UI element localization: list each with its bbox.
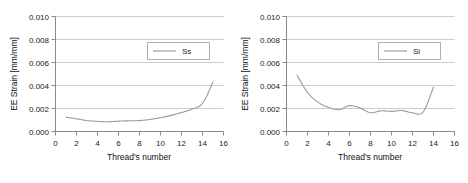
x-tick-label: 16 (450, 139, 459, 148)
x-tick-label: 4 (95, 139, 100, 148)
y-tick-label: 0.002 (260, 105, 281, 114)
x-tick-label: 10 (156, 139, 165, 148)
x-tick-label: 6 (116, 139, 121, 148)
x-tick-label: 16 (219, 139, 228, 148)
x-tick-label: 12 (408, 139, 417, 148)
x-tick-label: 0 (284, 139, 289, 148)
x-ticks-ss (56, 132, 224, 136)
y-tick-label: 0.006 (29, 59, 50, 68)
y-tick-label: 0.008 (29, 36, 50, 45)
x-tick-label: 8 (137, 139, 142, 148)
chart-panel-ss: 0.010 0.008 0.006 0.004 0.002 0.000 0 2 … (0, 0, 234, 183)
gridlines-ss (56, 17, 224, 109)
gridlines-si (287, 17, 455, 109)
x-tick-labels-si: 0 2 4 6 8 10 12 14 16 (284, 139, 459, 148)
x-tick-label: 14 (429, 139, 438, 148)
y-tick-label: 0.002 (29, 105, 50, 114)
axis-lines-si (287, 17, 455, 132)
y-tick-labels-si: 0.010 0.008 0.006 0.004 0.002 0.000 (260, 13, 281, 137)
x-ticks-si (287, 132, 455, 136)
y-tick-label: 0.008 (260, 36, 281, 45)
y-tick-label: 0.004 (260, 82, 281, 91)
x-axis-title: Thread's number (338, 152, 402, 162)
x-tick-labels-ss: 0 2 4 6 8 10 12 14 16 (53, 139, 228, 148)
data-line-ss (66, 82, 213, 122)
x-tick-label: 0 (53, 139, 58, 148)
y-tick-labels-ss: 0.010 0.008 0.006 0.004 0.002 0.000 (29, 13, 50, 137)
y-tick-label: 0.000 (260, 128, 281, 137)
x-tick-label: 8 (368, 139, 373, 148)
y-tick-label: 0.010 (29, 13, 50, 22)
y-tick-label: 0.010 (260, 13, 281, 22)
legend-label: Ss (182, 47, 191, 56)
legend-ss: Ss (148, 43, 210, 60)
y-axis-title: EE Strain [mm/mm] (9, 37, 19, 111)
y-ticks-ss (52, 17, 56, 132)
axis-lines-ss (56, 17, 224, 132)
y-tick-label: 0.006 (260, 59, 281, 68)
x-tick-label: 2 (74, 139, 79, 148)
chart-svg-si: 0.010 0.008 0.006 0.004 0.002 0.000 0 2 … (234, 0, 468, 183)
legend-label: Si (413, 47, 420, 56)
x-tick-label: 12 (177, 139, 186, 148)
chart-panel-si: 0.010 0.008 0.006 0.004 0.002 0.000 0 2 … (234, 0, 468, 183)
x-axis-title: Thread's number (107, 152, 171, 162)
chart-svg-ss: 0.010 0.008 0.006 0.004 0.002 0.000 0 2 … (0, 0, 234, 183)
y-tick-label: 0.004 (29, 82, 50, 91)
x-tick-label: 4 (326, 139, 331, 148)
two-panel-line-chart-figure: 0.010 0.008 0.006 0.004 0.002 0.000 0 2 … (0, 0, 468, 183)
legend-si: Si (379, 43, 441, 60)
y-ticks-si (283, 17, 287, 132)
x-tick-label: 2 (305, 139, 310, 148)
y-axis-title: EE Strain [mm/mm] (240, 37, 250, 111)
x-tick-label: 14 (198, 139, 207, 148)
x-tick-label: 10 (387, 139, 396, 148)
y-tick-label: 0.000 (29, 128, 50, 137)
x-tick-label: 6 (347, 139, 352, 148)
